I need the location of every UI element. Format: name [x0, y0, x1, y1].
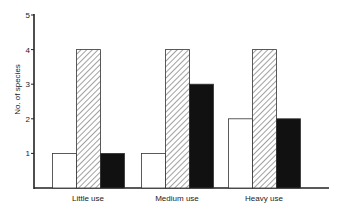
y-axis-label: No. of species	[13, 64, 22, 115]
x-category-labels: Little useMedium useHeavy use	[72, 194, 283, 203]
x-category-label: Little use	[72, 194, 105, 203]
bar-black	[277, 119, 301, 188]
bar-hatched	[253, 50, 277, 188]
y-tick-label: 2	[26, 115, 31, 124]
x-category-label: Medium use	[155, 194, 199, 203]
y-axis-title: No. of species	[13, 64, 22, 115]
bar-group-medium-use	[142, 50, 214, 188]
bars	[53, 50, 301, 188]
bar-white	[229, 119, 253, 188]
y-tick-label: 5	[26, 11, 31, 20]
bar-group-heavy-use	[229, 50, 301, 188]
bar-white	[53, 153, 77, 188]
y-tick-label: 4	[26, 46, 31, 55]
bar-black	[190, 84, 214, 188]
bar-chart: No. of species 12345 Little useMedium us…	[0, 0, 347, 211]
bar-hatched	[166, 50, 190, 188]
y-tick-label: 1	[26, 149, 31, 158]
bar-group-little-use	[53, 50, 125, 188]
bar-white	[142, 153, 166, 188]
x-category-label: Heavy use	[245, 194, 283, 203]
bar-hatched	[77, 50, 101, 188]
bar-black	[101, 153, 125, 188]
y-ticks: 12345	[26, 11, 34, 158]
y-tick-label: 3	[26, 80, 31, 89]
